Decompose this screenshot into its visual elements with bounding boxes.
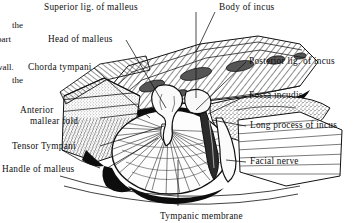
column-fragment: the [12, 20, 23, 31]
label-chorda-tympani: Chorda tympani [28, 62, 92, 73]
label-head-of-malleus: Head of malleus [48, 34, 113, 45]
column-fragment: wall. [0, 62, 14, 73]
label-handle-of-malleus: Handle of malleus [2, 164, 74, 175]
label-tympanic-membrane: Tympanic membrane [160, 211, 243, 222]
label-tensor-tympani: Tensor Tympani [12, 141, 76, 152]
label-fossa-incudis: Fossa incudis [249, 90, 303, 101]
label-anterior-mallear-fold-line-1: Anterior [20, 105, 54, 116]
label-anterior-mallear-fold-line-2: mallear fold [30, 116, 78, 127]
label-long-process-of-incus: Long process of incus [250, 120, 337, 131]
label-body-of-incus: Body of incus [219, 2, 274, 13]
anatomical-figure: the part wall. the Superior lig. of mall… [0, 0, 364, 223]
label-superior-ligament-of-malleus: Superior lig. of malleus [44, 2, 138, 13]
column-fragment: the [12, 75, 23, 86]
column-fragment: part [0, 34, 11, 45]
label-facial-nerve: Facial nerve [250, 156, 299, 167]
label-posterior-ligament-of-incus: Posterior lig. of incus [249, 56, 335, 67]
